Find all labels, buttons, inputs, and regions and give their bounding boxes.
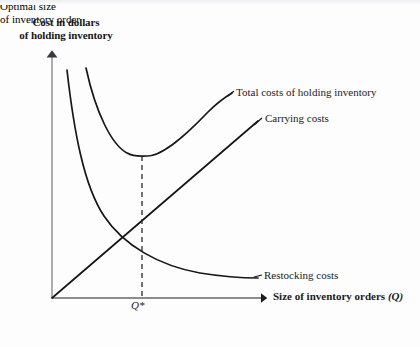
label-carrying-costs: Carrying costs	[265, 112, 329, 124]
y-axis-title-line-2: of holding inventory	[6, 29, 126, 42]
leader-line-total-costs	[228, 91, 234, 96]
curve-total-costs	[86, 68, 232, 156]
leader-line-restocking-costs	[254, 275, 262, 277]
label-total-costs: Total costs of holding inventory	[236, 86, 376, 98]
leader-line-carrying-costs	[254, 118, 262, 125]
x-axis-title-symbol: (Q)	[388, 290, 403, 302]
figure-container: Cost in dollars of holding inventory Tot…	[0, 0, 420, 347]
x-axis-title-text: Size of inventory orders	[273, 290, 385, 302]
x-axis-title: Size of inventory orders (Q)	[273, 290, 403, 302]
optimal-quantity-marker: Q*	[131, 299, 144, 311]
curve-carrying-costs	[52, 121, 258, 298]
y-axis-title: Cost in dollars of holding inventory	[6, 16, 126, 42]
label-restocking-costs: Restocking costs	[264, 269, 338, 281]
y-axis-title-line-1: Cost in dollars	[6, 16, 126, 29]
